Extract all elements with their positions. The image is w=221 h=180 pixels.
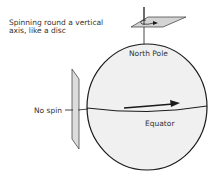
north-pole-label: North Pole xyxy=(129,49,168,58)
horizontal-plane xyxy=(131,17,186,27)
vertical-axis-label-line2: axis, like a disc xyxy=(9,26,66,35)
equator-label: Equator xyxy=(145,119,175,128)
sphere xyxy=(87,44,207,170)
spin-diagram: Spinning round a vertical axis, like a d… xyxy=(0,0,221,180)
no-spin-label: No spin xyxy=(34,106,62,115)
vertical-plane xyxy=(72,69,79,149)
